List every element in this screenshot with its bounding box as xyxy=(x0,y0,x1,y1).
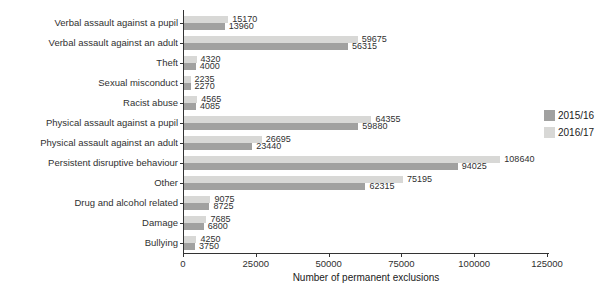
legend-swatch xyxy=(544,110,555,121)
category-cell: Verbal assault against a pupil xyxy=(0,13,183,33)
bar-2015-16 xyxy=(184,163,458,170)
legend-label: 2015/16 xyxy=(558,110,594,121)
x-axis-tick xyxy=(329,253,330,257)
bar-row: Drug and alcohol related90758725 xyxy=(0,193,609,213)
bar-value-label: 62315 xyxy=(369,182,394,191)
category-cell: Bullying xyxy=(0,233,183,253)
bar-row: Racist abuse45654085 xyxy=(0,93,609,113)
bar-line: 6800 xyxy=(184,223,609,230)
bar-chart-figure: Verbal assault against a pupil1517013960… xyxy=(0,0,609,291)
bar-2016-17 xyxy=(184,156,500,163)
bar-row: Physical assault against a pupil64355598… xyxy=(0,113,609,133)
bar-2016-17 xyxy=(184,136,262,143)
category-label: Theft xyxy=(156,58,178,68)
bar-2015-16 xyxy=(184,143,252,150)
bars-cell: 43204000 xyxy=(183,53,609,73)
category-cell: Theft xyxy=(0,53,183,73)
legend-swatch xyxy=(544,127,555,138)
bar-row: Sexual misconduct22352270 xyxy=(0,73,609,93)
bars-cell: 10864094025 xyxy=(183,153,609,173)
bar-row: Other7519562315 xyxy=(0,173,609,193)
bar-2016-17 xyxy=(184,16,228,23)
bar-2016-17 xyxy=(184,236,196,243)
x-axis-tick xyxy=(547,253,548,257)
bar-line: 23440 xyxy=(184,143,609,150)
bar-row: Damage76856800 xyxy=(0,213,609,233)
x-axis-line xyxy=(183,253,549,254)
bar-row: Verbal assault against a pupil1517013960 xyxy=(0,13,609,33)
category-cell: Physical assault against an adult xyxy=(0,133,183,153)
bar-value-label: 23440 xyxy=(256,142,281,151)
bar-line: 2270 xyxy=(184,83,609,90)
bar-line: 4000 xyxy=(184,63,609,70)
category-cell: Sexual misconduct xyxy=(0,73,183,93)
bar-line: 4320 xyxy=(184,56,609,63)
bar-2015-16 xyxy=(184,183,365,190)
bar-line: 4565 xyxy=(184,96,609,103)
category-label: Physical assault against an adult xyxy=(40,138,178,148)
bar-2016-17 xyxy=(184,196,210,203)
bar-row: Theft43204000 xyxy=(0,53,609,73)
bar-2015-16 xyxy=(184,23,225,30)
bar-line: 13960 xyxy=(184,23,609,30)
category-label: Verbal assault against an adult xyxy=(49,38,178,48)
bar-value-label: 4000 xyxy=(200,62,220,71)
bar-value-label: 6800 xyxy=(208,222,228,231)
category-cell: Persistent disruptive behaviour xyxy=(0,153,183,173)
bar-2015-16 xyxy=(184,63,196,70)
bar-2016-17 xyxy=(184,216,206,223)
bar-2015-16 xyxy=(184,103,196,110)
x-axis-tick-label: 0 xyxy=(180,258,185,269)
bar-value-label: 2270 xyxy=(195,82,215,91)
category-label: Sexual misconduct xyxy=(98,78,178,88)
x-axis-tick xyxy=(256,253,257,257)
bar-line: 9075 xyxy=(184,196,609,203)
bar-line: 7685 xyxy=(184,216,609,223)
bars-cell: 7519562315 xyxy=(183,173,609,193)
bar-value-label: 94025 xyxy=(462,162,487,171)
category-cell: Racist abuse xyxy=(0,93,183,113)
bars-cell: 1517013960 xyxy=(183,13,609,33)
bar-line: 4250 xyxy=(184,236,609,243)
category-label: Verbal assault against a pupil xyxy=(54,18,178,28)
x-axis-tick-label: 125000 xyxy=(531,258,563,269)
category-label: Bullying xyxy=(145,238,178,248)
bar-rows: Verbal assault against a pupil1517013960… xyxy=(0,13,609,253)
bar-line: 108640 xyxy=(184,156,609,163)
x-axis-tick-label: 100000 xyxy=(458,258,490,269)
bar-2016-17 xyxy=(184,116,371,123)
bar-2016-17 xyxy=(184,56,197,63)
bar-row: Persistent disruptive behaviour108640940… xyxy=(0,153,609,173)
x-axis-tick-label: 75000 xyxy=(388,258,414,269)
x-axis-tick-label: 50000 xyxy=(315,258,341,269)
bar-2016-17 xyxy=(184,36,358,43)
bar-2015-16 xyxy=(184,203,209,210)
category-label: Physical assault against a pupil xyxy=(46,118,178,128)
bars-cell: 90758725 xyxy=(183,193,609,213)
bar-line: 56315 xyxy=(184,43,609,50)
bar-value-label: 56315 xyxy=(352,42,377,51)
x-axis-tick xyxy=(401,253,402,257)
bar-2015-16 xyxy=(184,123,358,130)
category-cell: Other xyxy=(0,173,183,193)
category-cell: Damage xyxy=(0,213,183,233)
category-label: Racist abuse xyxy=(123,98,178,108)
category-label: Other xyxy=(154,178,178,188)
bar-line: 3750 xyxy=(184,243,609,250)
bars-cell: 76856800 xyxy=(183,213,609,233)
bar-value-label: 4085 xyxy=(200,102,220,111)
bar-line: 59675 xyxy=(184,36,609,43)
bars-cell: 5967556315 xyxy=(183,33,609,53)
bar-line: 8725 xyxy=(184,203,609,210)
bar-2015-16 xyxy=(184,243,195,250)
bar-value-label: 59880 xyxy=(362,122,387,131)
legend-item: 2015/16 xyxy=(544,107,594,124)
bar-line: 75195 xyxy=(184,176,609,183)
x-axis-tick xyxy=(474,253,475,257)
bar-line: 2235 xyxy=(184,76,609,83)
category-label: Persistent disruptive behaviour xyxy=(48,158,178,168)
bar-value-label: 8725 xyxy=(213,202,233,211)
bar-2016-17 xyxy=(184,76,191,83)
bar-2015-16 xyxy=(184,43,348,50)
bar-value-label: 13960 xyxy=(229,22,254,31)
